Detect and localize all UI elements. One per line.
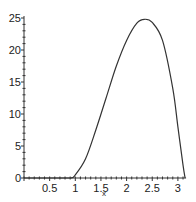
x-tick-label: 2 bbox=[124, 182, 130, 194]
x-tick-label: 3 bbox=[175, 182, 181, 194]
y-tick-label: 10 bbox=[9, 108, 21, 120]
chart-canvas: 0510152025 0.511.522.53 x bbox=[0, 0, 196, 202]
x-tick-label: 0.5 bbox=[42, 182, 57, 194]
data-curve bbox=[24, 19, 185, 178]
x-tick-label: 1 bbox=[72, 182, 78, 194]
y-tick-label: 5 bbox=[15, 140, 21, 152]
x-tick-label: 1.5 bbox=[93, 182, 108, 194]
x-tick-label: 2.5 bbox=[145, 182, 160, 194]
y-tick-label: 15 bbox=[9, 76, 21, 88]
x-axis-label: x bbox=[102, 189, 106, 198]
line-chart: 0510152025 0.511.522.53 x bbox=[0, 0, 196, 202]
y-axis: 0510152025 bbox=[9, 12, 26, 184]
y-tick-label: 0 bbox=[15, 172, 21, 184]
y-tick-label: 20 bbox=[9, 44, 21, 56]
y-tick-label: 25 bbox=[9, 12, 21, 24]
